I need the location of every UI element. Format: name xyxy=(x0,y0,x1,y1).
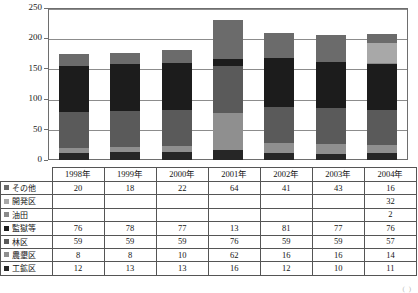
stacked-bar[interactable] xyxy=(162,50,192,160)
legend-label-text: 監獄等 xyxy=(12,224,36,233)
legend-row-label[interactable]: 農墾区 xyxy=(1,248,53,261)
legend-row-label[interactable]: 林区 xyxy=(1,235,53,248)
bar-segment[interactable] xyxy=(367,34,397,44)
bar-segment[interactable] xyxy=(110,152,140,160)
bar-segment[interactable] xyxy=(316,62,346,109)
bar-segment[interactable] xyxy=(367,110,397,145)
bar-segment[interactable] xyxy=(367,145,397,154)
table-row: 林区59595976595957 xyxy=(1,235,417,248)
table-row: 農墾区881062161614 xyxy=(1,248,417,261)
table-cell xyxy=(208,195,260,208)
table-cell: 78 xyxy=(104,222,156,235)
bar-segment[interactable] xyxy=(110,111,140,147)
table-column-header: 1998年 xyxy=(52,168,104,182)
table-cell xyxy=(312,195,364,208)
table-cell: 13 xyxy=(156,262,208,275)
bar-segment[interactable] xyxy=(316,154,346,160)
bar-segment[interactable] xyxy=(59,66,89,112)
legend-label-text: 林区 xyxy=(12,238,28,247)
bar-segment[interactable] xyxy=(367,64,397,110)
legend-row-label[interactable]: 工鉱区 xyxy=(1,262,53,275)
legend-label-text: 油田 xyxy=(12,211,28,220)
bar-segment[interactable] xyxy=(162,152,192,160)
table-cell: 10 xyxy=(156,248,208,261)
table-cell: 13 xyxy=(104,262,156,275)
chart-plot-area: 050100150200250 xyxy=(0,0,418,170)
bar-segment[interactable] xyxy=(213,66,243,112)
stacked-bar[interactable] xyxy=(316,35,346,160)
bar-segment[interactable] xyxy=(213,59,243,67)
table-cell: 59 xyxy=(104,235,156,248)
table-cell: 76 xyxy=(52,222,104,235)
bar-segment[interactable] xyxy=(316,108,346,144)
stacked-bar[interactable] xyxy=(264,33,294,160)
table-cell: 62 xyxy=(208,248,260,261)
table-cell: 18 xyxy=(104,182,156,195)
bar-segment[interactable] xyxy=(59,112,89,148)
bar-segment[interactable] xyxy=(367,153,397,160)
bar-segment[interactable] xyxy=(213,113,243,151)
table-cell xyxy=(52,208,104,221)
table-cell: 13 xyxy=(208,222,260,235)
table-cell: 59 xyxy=(52,235,104,248)
table-cell: 59 xyxy=(312,235,364,248)
bar-group xyxy=(48,8,99,160)
table-cell: 11 xyxy=(364,262,416,275)
stacked-bar[interactable] xyxy=(110,53,140,160)
bar-segment[interactable] xyxy=(162,110,192,146)
table-cell: 12 xyxy=(260,262,312,275)
stacked-bar[interactable] xyxy=(213,20,243,160)
table-cell xyxy=(104,195,156,208)
data-table: 1998年1999年2000年2001年2002年2003年2004年その他20… xyxy=(0,167,417,276)
bar-segment[interactable] xyxy=(264,33,294,58)
bar-segment[interactable] xyxy=(59,153,89,160)
table-cell: 10 xyxy=(312,262,364,275)
table-corner-cell xyxy=(1,168,53,182)
stacked-bar[interactable] xyxy=(59,54,89,160)
table-cell: 76 xyxy=(364,222,416,235)
legend-swatch-icon xyxy=(4,226,9,231)
table-cell xyxy=(208,208,260,221)
table-cell: 43 xyxy=(312,182,364,195)
table-cell: 59 xyxy=(260,235,312,248)
stacked-bar[interactable] xyxy=(367,34,397,160)
bar-segment[interactable] xyxy=(162,63,192,110)
y-axis-tick-label: 100 xyxy=(0,94,42,103)
table-row: 工鉱区12131316121011 xyxy=(1,262,417,275)
table-header-row: 1998年1999年2000年2001年2002年2003年2004年 xyxy=(1,168,417,182)
legend-row-label[interactable]: 開発区 xyxy=(1,195,53,208)
legend-row-label[interactable]: その他 xyxy=(1,182,53,195)
y-axis-tick-label: 0 xyxy=(0,155,42,164)
footnote-text: ( ) xyxy=(403,285,412,293)
bar-segment[interactable] xyxy=(110,53,140,64)
bar-segment[interactable] xyxy=(162,50,192,63)
table-cell xyxy=(104,208,156,221)
bar-segment[interactable] xyxy=(264,143,294,153)
bar-segment[interactable] xyxy=(59,54,89,66)
legend-swatch-icon xyxy=(4,185,9,190)
legend-row-label[interactable]: 監獄等 xyxy=(1,222,53,235)
bar-segment[interactable] xyxy=(264,58,294,107)
table-cell: 12 xyxy=(52,262,104,275)
table-cell: 77 xyxy=(312,222,364,235)
bar-segment[interactable] xyxy=(213,150,243,160)
bar-segment[interactable] xyxy=(264,153,294,160)
bar-segment[interactable] xyxy=(367,43,397,62)
bar-segment[interactable] xyxy=(264,107,294,143)
legend-swatch-icon xyxy=(4,252,9,257)
bar-segment[interactable] xyxy=(316,144,346,154)
bar-segment[interactable] xyxy=(110,64,140,111)
table-cell: 14 xyxy=(364,248,416,261)
table-cell: 8 xyxy=(104,248,156,261)
legend-swatch-icon xyxy=(4,199,9,204)
table-cell xyxy=(52,195,104,208)
bar-segment[interactable] xyxy=(316,35,346,61)
bar-segment[interactable] xyxy=(213,20,243,59)
table-row: その他20182264414316 xyxy=(1,182,417,195)
table-cell: 20 xyxy=(52,182,104,195)
bar-group xyxy=(357,8,408,160)
legend-label-text: その他 xyxy=(12,184,36,193)
table-cell xyxy=(260,208,312,221)
legend-row-label[interactable]: 油田 xyxy=(1,208,53,221)
table-cell: 16 xyxy=(312,248,364,261)
